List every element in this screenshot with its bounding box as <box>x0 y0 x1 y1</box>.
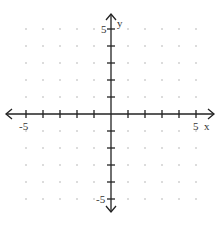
grid-dot <box>76 62 78 64</box>
grid-dot <box>42 62 44 64</box>
grid-dot <box>42 198 44 200</box>
grid-dot <box>42 130 44 132</box>
grid-dot <box>42 164 44 166</box>
y-axis-label: y <box>117 17 123 29</box>
grid-dot <box>161 130 163 132</box>
grid-dot <box>161 96 163 98</box>
grid-dot <box>25 96 27 98</box>
grid-dot <box>59 164 61 166</box>
y-max-label: 5 <box>101 23 107 35</box>
grid-dot <box>93 164 95 166</box>
grid-dot <box>178 45 180 47</box>
grid-dot <box>195 45 197 47</box>
grid-dot <box>195 198 197 200</box>
grid-dot <box>76 28 78 30</box>
grid-dot <box>178 96 180 98</box>
grid-dot <box>59 198 61 200</box>
grid-dot <box>25 164 27 166</box>
grid-dot <box>144 96 146 98</box>
grid-dot <box>93 62 95 64</box>
grid-dot <box>127 45 129 47</box>
grid-dot <box>93 130 95 132</box>
grid-dot <box>127 164 129 166</box>
grid-dot <box>93 181 95 183</box>
grid-dot <box>25 45 27 47</box>
axes <box>6 14 214 212</box>
grid-dot <box>178 181 180 183</box>
grid-dot <box>42 79 44 81</box>
grid-dot <box>76 130 78 132</box>
grid-dot <box>161 79 163 81</box>
grid-dot <box>127 96 129 98</box>
grid-dot <box>161 147 163 149</box>
grid-dot <box>195 147 197 149</box>
grid-dot <box>161 28 163 30</box>
grid-dot <box>93 45 95 47</box>
grid-dot <box>42 45 44 47</box>
grid-dot <box>127 28 129 30</box>
grid-dot <box>93 198 95 200</box>
grid-dot <box>59 62 61 64</box>
grid-dot <box>178 79 180 81</box>
grid-dot <box>195 28 197 30</box>
grid-dot <box>178 28 180 30</box>
grid-dot <box>144 45 146 47</box>
grid-dot <box>144 147 146 149</box>
grid-dot <box>127 147 129 149</box>
grid-dot <box>93 96 95 98</box>
grid-dot <box>195 62 197 64</box>
grid-dot <box>195 164 197 166</box>
grid-dot <box>178 198 180 200</box>
grid-dot <box>76 147 78 149</box>
grid-dot <box>42 181 44 183</box>
grid-dot <box>195 79 197 81</box>
grid-dot <box>76 45 78 47</box>
grid-dot <box>127 198 129 200</box>
grid-dot <box>195 96 197 98</box>
grid-dot <box>127 181 129 183</box>
grid-dot <box>59 28 61 30</box>
grid-dot <box>76 181 78 183</box>
grid-dot <box>59 96 61 98</box>
grid-dot <box>76 96 78 98</box>
grid-dot <box>161 62 163 64</box>
grid-dot <box>178 164 180 166</box>
grid-dot <box>127 62 129 64</box>
grid-dot <box>25 181 27 183</box>
grid-dot <box>178 130 180 132</box>
grid-dot <box>42 28 44 30</box>
grid-dot <box>59 45 61 47</box>
grid-dot <box>42 147 44 149</box>
grid-dot <box>76 79 78 81</box>
grid-dot <box>42 96 44 98</box>
grid-dot <box>195 181 197 183</box>
grid-dot <box>76 198 78 200</box>
grid-dot <box>25 147 27 149</box>
grid-dot <box>144 28 146 30</box>
grid-dot <box>144 130 146 132</box>
grid-dot <box>25 62 27 64</box>
grid-dot <box>25 79 27 81</box>
grid-dot <box>127 130 129 132</box>
grid-dot <box>25 198 27 200</box>
x-max-label: 5 <box>193 120 199 132</box>
grid-dot <box>178 147 180 149</box>
grid-dot <box>93 147 95 149</box>
grid-dot <box>161 164 163 166</box>
axis-labels: -5 5 x 5 y -5 <box>19 17 210 205</box>
grid-dot <box>144 79 146 81</box>
grid-dot <box>127 79 129 81</box>
grid-dot <box>144 198 146 200</box>
x-axis-label: x <box>204 120 210 132</box>
grid-dot <box>93 28 95 30</box>
grid-dot <box>161 45 163 47</box>
x-min-label: -5 <box>19 120 29 132</box>
grid-dot <box>178 62 180 64</box>
grid-dot <box>25 28 27 30</box>
grid-dot <box>161 198 163 200</box>
grid-dot <box>144 164 146 166</box>
grid-dot <box>161 181 163 183</box>
grid-dot <box>76 164 78 166</box>
coordinate-plane: -5 5 x 5 y -5 <box>0 0 221 225</box>
grid-dot <box>59 130 61 132</box>
